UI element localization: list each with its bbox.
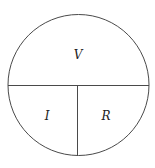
- label-voltage: V: [74, 48, 84, 62]
- ohms-law-circle-diagram: V I R: [0, 0, 155, 168]
- label-resistance: R: [100, 109, 110, 123]
- label-current: I: [44, 109, 50, 123]
